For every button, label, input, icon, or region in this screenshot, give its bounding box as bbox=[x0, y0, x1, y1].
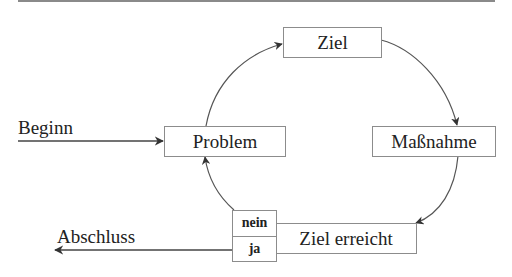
node-goal: Ziel bbox=[283, 27, 382, 58]
measure-to-reached-arrow bbox=[416, 156, 458, 223]
decision-box: nein ja bbox=[232, 210, 277, 262]
decision-no: nein bbox=[233, 211, 276, 236]
node-goal-reached: Ziel erreicht bbox=[275, 223, 417, 254]
node-measure: Maßnahme bbox=[372, 126, 496, 157]
node-problem-label: Problem bbox=[193, 131, 257, 153]
entry-label: Beginn bbox=[18, 117, 73, 139]
no-to-problem-arrow bbox=[205, 157, 234, 210]
problem-to-goal-arrow bbox=[206, 44, 282, 126]
node-goal-label: Ziel bbox=[317, 32, 348, 54]
node-goal-reached-label: Ziel erreicht bbox=[299, 228, 392, 250]
goal-to-measure-arrow bbox=[381, 40, 457, 125]
decision-yes: ja bbox=[233, 236, 276, 262]
node-problem: Problem bbox=[164, 126, 286, 157]
exit-label: Abschluss bbox=[57, 226, 135, 248]
node-measure-label: Maßnahme bbox=[391, 131, 476, 153]
